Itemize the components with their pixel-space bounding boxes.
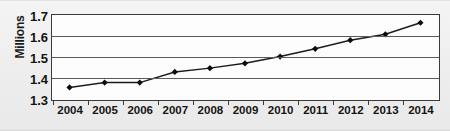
plot-area <box>51 14 440 101</box>
data-point-marker <box>347 37 353 43</box>
x-tick-label: 2010 <box>268 104 294 116</box>
data-point-marker <box>207 65 213 71</box>
gridline <box>52 36 439 37</box>
y-tick-label: 1.5 <box>14 50 48 65</box>
x-tick-label: 2006 <box>127 104 153 116</box>
x-tick-mark <box>158 101 159 105</box>
x-tick-label: 2009 <box>233 104 259 116</box>
x-tick-mark <box>298 101 299 105</box>
data-point-marker <box>137 80 143 86</box>
x-tick-label: 2012 <box>338 104 364 116</box>
line-chart: Millions 1.31.41.51.61.7 200420052006200… <box>0 0 450 131</box>
x-tick-label: 2008 <box>198 104 224 116</box>
y-tick-label: 1.4 <box>14 71 48 86</box>
data-point-marker <box>172 69 178 75</box>
gridline <box>52 78 439 79</box>
x-tick-mark <box>123 101 124 105</box>
x-tick-label: 2011 <box>303 104 328 116</box>
x-tick-mark <box>263 101 264 105</box>
gridline <box>52 57 439 58</box>
y-tick-label: 1.7 <box>14 8 48 23</box>
data-point-marker <box>102 80 108 86</box>
y-tick-label: 1.6 <box>14 29 48 44</box>
data-point-marker <box>242 60 248 66</box>
data-point-marker <box>312 46 318 52</box>
x-tick-label: 2005 <box>92 104 118 116</box>
x-tick-mark <box>193 101 194 105</box>
data-point-marker <box>66 84 72 90</box>
x-tick-mark <box>88 101 89 105</box>
x-tick-label: 2014 <box>408 104 434 116</box>
x-tick-label: 2007 <box>163 104 189 116</box>
x-tick-label: 2004 <box>57 104 83 116</box>
x-tick-mark <box>368 101 369 105</box>
data-point-marker <box>417 20 423 26</box>
x-tick-mark <box>403 101 404 105</box>
x-tick-mark <box>53 101 54 105</box>
x-tick-mark <box>333 101 334 105</box>
x-tick-label: 2013 <box>373 104 399 116</box>
x-tick-mark <box>228 101 229 105</box>
y-tick-label: 1.3 <box>14 92 48 107</box>
y-axis-tick-labels: 1.31.41.51.61.7 <box>8 0 48 131</box>
